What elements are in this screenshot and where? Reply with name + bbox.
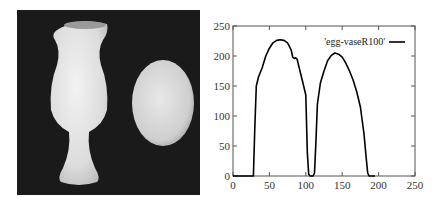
x-tick-label: 150 — [334, 179, 351, 191]
x-tick-label: 250 — [407, 179, 424, 191]
line-chart: 050100150200250050100150200250'egg-vaseR… — [205, 0, 439, 208]
egg-shape — [132, 60, 194, 146]
y-tick-label: 100 — [214, 110, 231, 122]
y-tick-label: 50 — [219, 140, 231, 152]
y-tick-label: 150 — [214, 80, 231, 92]
legend-label: 'egg-vaseR100' — [324, 36, 385, 47]
photo-illustration — [17, 10, 200, 195]
x-tick-label: 200 — [370, 179, 387, 191]
vase-top — [64, 21, 106, 29]
x-tick-label: 100 — [298, 179, 315, 191]
series-line — [233, 40, 375, 176]
chart-canvas: 050100150200250050100150200250'egg-vaseR… — [205, 0, 439, 208]
y-tick-label: 200 — [214, 50, 231, 62]
plot-frame — [233, 26, 415, 176]
x-tick-label: 0 — [230, 179, 236, 191]
vase-egg-photo — [17, 10, 200, 195]
x-tick-label: 50 — [264, 179, 276, 191]
y-tick-label: 250 — [214, 20, 231, 32]
